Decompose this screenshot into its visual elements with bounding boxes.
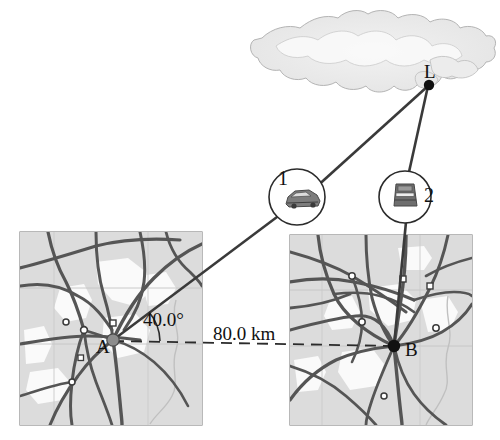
angle-label: 40.0° <box>143 310 184 329</box>
distance-label: 80.0 km <box>213 324 275 343</box>
car-one-label: 1 <box>278 168 288 188</box>
car-two-label: 2 <box>424 185 434 205</box>
point-b-label: B <box>405 340 418 359</box>
car-rear-icon <box>394 184 417 206</box>
figure-root: A B L 1 2 40.0° 80.0 km <box>0 0 500 440</box>
point-l-label: L <box>424 62 436 81</box>
point-b-dot <box>388 340 400 352</box>
right-city-map <box>290 235 472 425</box>
lake-outline <box>251 11 496 92</box>
point-a-label: A <box>96 337 110 356</box>
